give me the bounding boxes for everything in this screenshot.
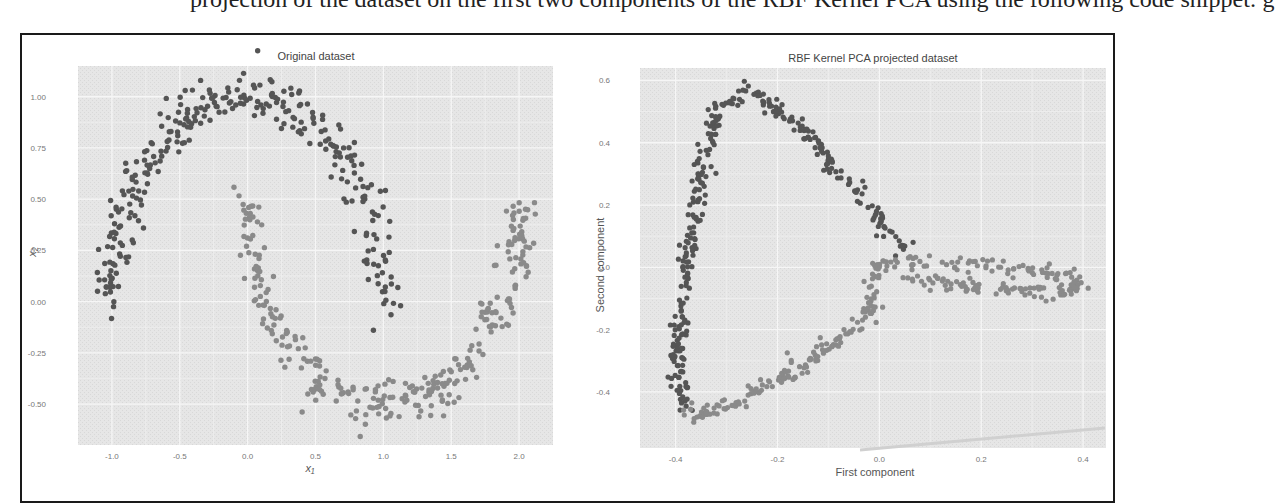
- scatter-point: [797, 364, 802, 369]
- scatter-point: [949, 260, 954, 265]
- scatter-point: [131, 240, 136, 245]
- x-tick-label: 1.5: [446, 452, 458, 461]
- scatter-point: [150, 141, 155, 146]
- scatter-point: [413, 403, 418, 408]
- scatter-point: [512, 235, 517, 240]
- scatter-point: [350, 387, 355, 392]
- scatter-point: [213, 103, 218, 108]
- scatter-point: [719, 102, 724, 107]
- scatter-point: [299, 409, 304, 414]
- scatter-point: [769, 103, 774, 108]
- scatter-point: [689, 230, 694, 235]
- scatter-point: [375, 273, 380, 278]
- scatter-point: [359, 162, 364, 167]
- scatter-point: [712, 101, 717, 106]
- scatter-point: [815, 152, 820, 157]
- scatter-point: [804, 364, 809, 369]
- scatter-point: [814, 344, 819, 349]
- scatter-point: [689, 178, 694, 183]
- scatter-point: [668, 353, 673, 358]
- x-tick-label: 0.4: [1078, 455, 1090, 464]
- scatter-point: [142, 149, 147, 154]
- scatter-point: [255, 48, 260, 53]
- scatter-point: [252, 113, 257, 118]
- scatter-point: [818, 335, 823, 340]
- scatter-point: [297, 103, 302, 108]
- scatter-point: [416, 414, 421, 419]
- scatter-point: [668, 384, 673, 389]
- scatter-point: [269, 328, 274, 333]
- scatter-point: [863, 315, 868, 320]
- scatter-point: [697, 187, 702, 192]
- scatter-point: [1068, 270, 1073, 275]
- scatter-point: [255, 219, 260, 224]
- scatter-point: [850, 316, 855, 321]
- y-tick-label: -0.50: [28, 400, 47, 409]
- scatter-point: [95, 289, 100, 294]
- scatter-point: [153, 160, 158, 165]
- scatter-point: [376, 263, 381, 268]
- scatter-point: [910, 276, 915, 281]
- scatter-point: [383, 259, 388, 264]
- scatter-point: [867, 285, 872, 290]
- scatter-point: [366, 277, 371, 282]
- scatter-point: [320, 112, 325, 117]
- scatter-point: [890, 229, 895, 234]
- scatter-point: [318, 142, 323, 147]
- scatter-point: [286, 357, 291, 362]
- scatter-point: [312, 387, 317, 392]
- scatter-point: [364, 386, 369, 391]
- scatter-point: [320, 391, 325, 396]
- scatter-point: [328, 174, 333, 179]
- scatter-point: [268, 306, 273, 311]
- scatter-point: [964, 288, 969, 293]
- left-y-axis-label: x₂: [26, 246, 38, 258]
- y-tick-label: 0.4: [599, 139, 611, 148]
- scatter-point: [676, 363, 681, 368]
- scatter-point: [322, 376, 327, 381]
- scatter-point: [975, 263, 980, 268]
- scatter-point: [440, 381, 445, 386]
- scatter-point: [1011, 266, 1016, 271]
- scatter-point: [1060, 288, 1065, 293]
- scatter-point: [1051, 297, 1056, 302]
- scatter-point: [113, 205, 118, 210]
- scatter-point: [423, 394, 428, 399]
- scatter-point: [874, 233, 879, 238]
- scatter-point: [1005, 271, 1010, 276]
- scatter-point: [258, 283, 263, 288]
- x-tick-label: 0.2: [976, 455, 988, 464]
- scatter-point: [298, 119, 303, 124]
- scatter-point: [103, 291, 108, 296]
- scatter-point: [779, 102, 784, 107]
- scatter-point: [387, 413, 392, 418]
- scatter-point: [241, 222, 246, 227]
- scatter-point: [333, 154, 338, 159]
- scatter-point: [382, 381, 387, 386]
- scatter-point: [1039, 295, 1044, 300]
- scatter-point: [317, 374, 322, 379]
- scatter-point: [713, 106, 718, 111]
- scatter-point: [258, 294, 263, 299]
- scatter-point: [280, 104, 285, 109]
- scatter-point: [322, 127, 327, 132]
- scatter-point: [701, 165, 706, 170]
- scatter-point: [766, 97, 771, 102]
- scatter-point: [349, 198, 354, 203]
- scatter-point: [819, 342, 824, 347]
- scatter-point: [815, 358, 820, 363]
- scatter-point: [697, 149, 702, 154]
- scatter-point: [380, 270, 385, 275]
- scatter-point: [781, 376, 786, 381]
- scatter-point: [288, 85, 293, 90]
- scatter-point: [673, 348, 678, 353]
- scatter-point: [429, 403, 434, 408]
- scatter-point: [187, 137, 192, 142]
- scatter-point: [311, 121, 316, 126]
- scatter-point: [260, 321, 265, 326]
- scatter-point: [107, 273, 112, 278]
- scatter-point: [685, 264, 690, 269]
- x-tick-label: -1.0: [105, 452, 119, 461]
- scatter-point: [506, 249, 511, 254]
- scatter-point: [484, 317, 489, 322]
